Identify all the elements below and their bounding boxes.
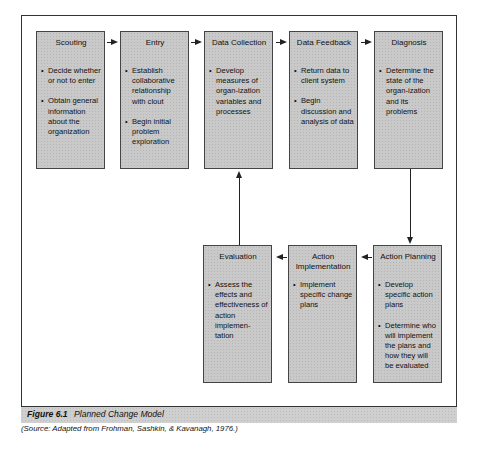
bullet: Return data to client system xyxy=(294,66,354,86)
box-scouting: Scouting Decide whether or not to enter … xyxy=(36,31,105,169)
arrow-right-icon xyxy=(195,39,202,45)
figure-title: Planned Change Model xyxy=(74,409,164,419)
box-entry: Entry Establish collaborative relationsh… xyxy=(120,31,189,169)
box-title: Action Planning xyxy=(378,252,438,272)
bullet: Implement specific change plans xyxy=(293,280,353,311)
bullet: Begin initial problem exploration xyxy=(125,117,185,148)
box-title: Diagnosis xyxy=(379,38,439,58)
arrow-right-icon xyxy=(280,39,287,45)
bullet: Develop specific action plans xyxy=(378,280,438,311)
box-evaluation: Evaluation Assess the effects and effect… xyxy=(203,245,272,383)
arrow-down-icon xyxy=(407,237,413,244)
box-title: Action Implementation xyxy=(293,252,353,272)
bullet: Determine the state of the organ-ization… xyxy=(379,66,439,117)
arrow-up-icon xyxy=(236,171,242,178)
box-title: Entry xyxy=(125,38,185,58)
box-diagnosis: Diagnosis Determine the state of the org… xyxy=(374,31,443,169)
figure-source: (Source: Adapted from Frohman, Sashkin, … xyxy=(21,424,238,433)
box-title: Scouting xyxy=(41,38,101,58)
arrow-right-icon xyxy=(111,39,118,45)
figure-caption: Figure 6.1 Planned Change Model xyxy=(27,409,164,419)
box-title: Evaluation xyxy=(208,252,268,272)
box-data-feedback: Data Feedback Return data to client syst… xyxy=(289,31,358,169)
bullet: Establish collaborative relationship wit… xyxy=(125,66,185,107)
arrow-right-icon xyxy=(365,39,372,45)
bullet: Determine who will implement the plans a… xyxy=(378,321,438,372)
box-action-implementation: Action Implementation Implement specific… xyxy=(288,245,357,383)
box-title: Data Feedback xyxy=(294,38,354,58)
box-data-collection: Data Collection Develop measures of orga… xyxy=(204,31,273,169)
figure-label: Figure 6.1 xyxy=(27,409,68,419)
box-title: Data Collection xyxy=(209,38,269,58)
box-action-planning: Action Planning Develop specific action … xyxy=(373,245,442,383)
bullet: Begin discussion and analysis of data xyxy=(294,96,354,127)
bullet: Decide whether or not to enter xyxy=(41,66,101,86)
bullet: Obtain general information about the org… xyxy=(41,96,101,137)
bullet: Develop measures of organ-ization variab… xyxy=(209,66,269,117)
bullet: Assess the effects and effectiveness of … xyxy=(208,280,268,341)
